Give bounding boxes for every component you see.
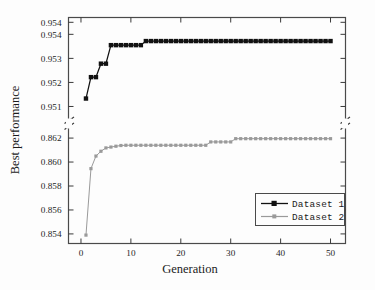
series-marker <box>134 43 138 47</box>
y-tick-label: 0.862 <box>41 133 62 143</box>
series-marker <box>154 39 158 43</box>
x-tick-label: 50 <box>326 248 336 258</box>
series-marker <box>199 39 203 43</box>
y-tick-label: 0.954 <box>41 18 62 28</box>
series-marker <box>199 144 202 147</box>
series-marker <box>144 39 148 43</box>
series-marker <box>89 167 92 170</box>
series-marker <box>244 137 247 140</box>
series-marker <box>278 39 282 43</box>
series-marker <box>159 144 162 147</box>
series-marker <box>304 137 307 140</box>
series-marker <box>164 144 167 147</box>
series-marker <box>149 144 152 147</box>
series-marker <box>164 39 168 43</box>
x-tick-label: 30 <box>226 248 236 258</box>
y-tick-label: 0.856 <box>41 205 62 215</box>
series-marker <box>84 234 87 237</box>
series-marker <box>239 137 242 140</box>
series-marker <box>184 39 188 43</box>
series-marker <box>214 39 218 43</box>
x-axis-title: Generation <box>162 262 218 276</box>
series-marker <box>224 39 228 43</box>
series-marker <box>313 39 317 43</box>
series-marker <box>109 145 112 148</box>
series-marker <box>194 144 197 147</box>
series-marker <box>264 137 267 140</box>
series-marker <box>119 43 123 47</box>
series-marker <box>169 39 173 43</box>
series-marker <box>109 43 113 47</box>
x-tick-label: 0 <box>79 248 84 258</box>
series-marker <box>84 96 88 100</box>
series-marker <box>253 39 257 43</box>
series-marker <box>129 144 132 147</box>
series-marker <box>209 140 212 143</box>
x-tick-label: 20 <box>176 248 186 258</box>
series-marker <box>243 39 247 43</box>
series-marker <box>303 39 307 43</box>
chart-legend[interactable]: Dataset 1 Dataset 2 <box>256 194 345 226</box>
series-marker <box>139 144 142 147</box>
series-marker <box>294 137 297 140</box>
series-marker <box>154 144 157 147</box>
y-tick-label: 0.854 <box>41 229 62 239</box>
x-tick-label: 40 <box>276 248 286 258</box>
series-marker <box>229 39 233 43</box>
series-marker <box>89 75 93 79</box>
series-marker <box>254 137 257 140</box>
legend-marker-dataset-2 <box>272 214 276 218</box>
series-marker <box>299 137 302 140</box>
y-tick-label: 0.860 <box>41 157 62 167</box>
y-tick-label: 0.858 <box>41 181 62 191</box>
series-marker <box>284 137 287 140</box>
series-marker <box>274 137 277 140</box>
series-marker <box>204 144 207 147</box>
series-marker <box>238 39 242 43</box>
series-marker <box>214 140 217 143</box>
series-marker <box>273 39 277 43</box>
series-marker <box>323 39 327 43</box>
series-marker <box>189 39 193 43</box>
series-marker <box>184 144 187 147</box>
series-marker <box>288 39 292 43</box>
series-marker <box>114 145 117 148</box>
series-marker <box>248 39 252 43</box>
series-marker <box>99 150 102 153</box>
series-marker <box>293 39 297 43</box>
series-marker <box>174 144 177 147</box>
series-marker <box>204 39 208 43</box>
series-marker <box>174 39 178 43</box>
series-marker <box>269 137 272 140</box>
series-marker <box>219 140 222 143</box>
y-tick-label: 0.953 <box>41 54 62 64</box>
series-marker <box>134 144 137 147</box>
series-marker <box>259 137 262 140</box>
series-marker <box>234 137 237 140</box>
series-marker <box>289 137 292 140</box>
chart-figure: 0.9510.9520.9530.9540.954 0.8540.8560.85… <box>0 0 375 290</box>
series-marker <box>189 144 192 147</box>
series-marker <box>179 39 183 43</box>
x-tick-label: 10 <box>126 248 136 258</box>
series-marker <box>234 39 238 43</box>
chart-canvas: 0.9510.9520.9530.9540.954 0.8540.8560.85… <box>0 0 375 290</box>
series-marker <box>279 137 282 140</box>
series-marker <box>114 43 118 47</box>
series-marker <box>309 137 312 140</box>
series-marker <box>124 43 128 47</box>
series-marker <box>219 39 223 43</box>
series-marker <box>319 137 322 140</box>
series-marker <box>129 43 133 47</box>
series-marker <box>104 61 108 65</box>
series-marker <box>263 39 267 43</box>
series-marker <box>329 137 332 140</box>
series-marker <box>179 144 182 147</box>
series-marker <box>94 75 98 79</box>
y-tick-label: 0.954 <box>41 30 62 40</box>
series-marker <box>224 140 227 143</box>
series-marker <box>328 39 332 43</box>
series-marker <box>94 154 97 157</box>
series-marker <box>119 144 122 147</box>
series-marker <box>104 146 107 149</box>
